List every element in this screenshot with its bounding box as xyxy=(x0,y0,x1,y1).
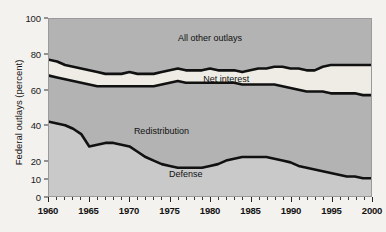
x-tick-minor xyxy=(323,197,324,200)
x-tick-minor xyxy=(307,197,308,200)
y-axis-title: Federal outlays (percent) xyxy=(13,38,24,188)
x-tick-minor xyxy=(259,197,260,200)
y-tick-label: 60 xyxy=(31,84,41,95)
x-tick-label: 1975 xyxy=(159,205,179,216)
x-tick-major xyxy=(332,197,333,202)
x-tick-minor xyxy=(72,197,73,200)
x-tick-minor xyxy=(348,197,349,200)
plot-svg xyxy=(49,19,371,196)
x-tick-major xyxy=(291,197,292,202)
y-tick-label: 80 xyxy=(31,48,41,59)
x-tick-minor xyxy=(315,197,316,200)
x-tick-minor xyxy=(64,197,65,200)
x-axis: 196019651970197519801985199019952000 xyxy=(0,197,386,232)
x-tick-major xyxy=(251,197,252,202)
x-tick-minor xyxy=(218,197,219,200)
x-tick-minor xyxy=(145,197,146,200)
x-tick-minor xyxy=(186,197,187,200)
x-tick-minor xyxy=(161,197,162,200)
x-tick-major xyxy=(48,197,49,202)
x-tick-label: 1970 xyxy=(119,205,139,216)
x-tick-minor xyxy=(356,197,357,200)
x-tick-minor xyxy=(267,197,268,200)
x-tick-major xyxy=(170,197,171,202)
x-tick-minor xyxy=(105,197,106,200)
x-tick-minor xyxy=(153,197,154,200)
x-tick-label: 2000 xyxy=(362,205,382,216)
x-tick-minor xyxy=(226,197,227,200)
x-tick-minor xyxy=(283,197,284,200)
x-tick-major xyxy=(210,197,211,202)
x-tick-minor xyxy=(113,197,114,200)
x-tick-major xyxy=(89,197,90,202)
y-tick-label: 40 xyxy=(31,120,41,131)
x-tick-minor xyxy=(202,197,203,200)
x-tick-minor xyxy=(299,197,300,200)
x-tick-label: 1990 xyxy=(281,205,301,216)
x-tick-minor xyxy=(178,197,179,200)
x-tick-label: 1965 xyxy=(78,205,98,216)
x-tick-minor xyxy=(121,197,122,200)
x-tick-minor xyxy=(364,197,365,200)
chart-figure: Federal outlays (percent) 01020406080100… xyxy=(0,0,386,232)
x-tick-label: 1985 xyxy=(240,205,260,216)
y-tick-label: 20 xyxy=(31,156,41,167)
x-tick-label: 1995 xyxy=(321,205,341,216)
x-tick-minor xyxy=(56,197,57,200)
x-tick-major xyxy=(372,197,373,202)
x-tick-minor xyxy=(275,197,276,200)
x-tick-minor xyxy=(137,197,138,200)
x-tick-minor xyxy=(340,197,341,200)
x-tick-major xyxy=(129,197,130,202)
x-tick-minor xyxy=(194,197,195,200)
plot-area xyxy=(48,18,372,197)
x-tick-label: 1980 xyxy=(200,205,220,216)
x-tick-label: 1960 xyxy=(38,205,58,216)
x-tick-minor xyxy=(97,197,98,200)
y-tick-label: 100 xyxy=(25,13,41,24)
x-tick-minor xyxy=(80,197,81,200)
x-tick-minor xyxy=(242,197,243,200)
x-tick-minor xyxy=(234,197,235,200)
y-tick-label: 10 xyxy=(31,174,41,185)
